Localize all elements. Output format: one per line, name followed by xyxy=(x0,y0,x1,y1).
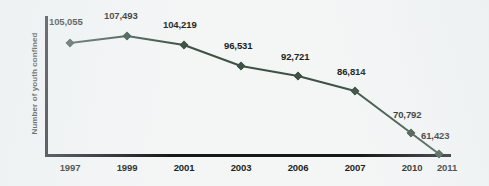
x-axis-tick-label: 2010 xyxy=(402,162,423,173)
x-axis-tick-label: 2006 xyxy=(288,162,309,173)
x-axis-tick-label: 1997 xyxy=(60,162,81,173)
data-point-value-label: 96,531 xyxy=(224,40,252,51)
data-point-value-label: 107,493 xyxy=(104,10,138,21)
x-axis-tick-label: 2001 xyxy=(174,162,195,173)
series-line xyxy=(70,36,439,154)
data-point-value-label: 70,792 xyxy=(393,109,421,120)
data-point-value-label: 61,423 xyxy=(421,130,449,141)
x-axis-tick-label: 2007 xyxy=(345,162,366,173)
line-chart-youth-confined: Number of youth confined 105,055107,4931… xyxy=(0,0,489,186)
data-point-value-label: 86,814 xyxy=(337,66,365,77)
x-axis-tick-label: 2011 xyxy=(437,162,457,173)
data-point-marker xyxy=(66,39,74,47)
data-point-marker xyxy=(294,72,302,80)
data-point-value-label: 104,219 xyxy=(163,19,197,30)
data-point-value-label: 92,721 xyxy=(281,51,309,62)
series-markers xyxy=(66,32,443,158)
x-axis-tick-label: 1999 xyxy=(117,162,138,173)
data-point-marker xyxy=(237,62,245,70)
data-point-marker xyxy=(123,32,131,40)
data-point-marker xyxy=(180,41,188,49)
plot-area xyxy=(0,0,489,186)
x-axis-tick-label: 2003 xyxy=(231,162,252,173)
data-point-value-label: 105,055 xyxy=(49,16,83,27)
